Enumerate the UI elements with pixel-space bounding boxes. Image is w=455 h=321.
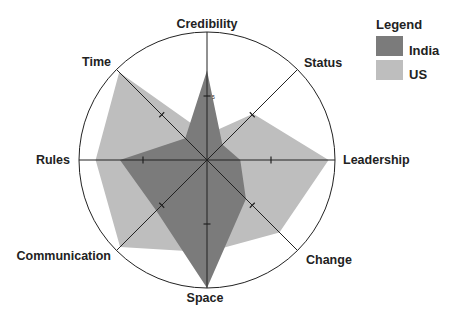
legend-label-us: US <box>409 67 427 82</box>
axis-spokes <box>79 32 335 288</box>
legend-swatch-india <box>376 36 403 56</box>
legend-item-india: India <box>376 34 455 58</box>
axis-label-leadership: Leadership <box>343 153 410 167</box>
legend-label-india: India <box>409 43 439 58</box>
legend-title: Legend <box>376 16 455 34</box>
legend: Legend India US <box>376 16 455 82</box>
axis-label-time: Time <box>82 55 111 69</box>
legend-swatch-us <box>376 60 403 80</box>
tick-label-5: 5 <box>212 94 215 100</box>
axis-label-communication: Communication <box>17 249 111 263</box>
axis-label-change: Change <box>306 253 352 267</box>
axis-label-space: Space <box>187 291 224 305</box>
axis-label-credibility: Credibility <box>176 17 237 31</box>
legend-item-us: US <box>376 58 455 82</box>
axis-label-status: Status <box>304 56 342 70</box>
axis-label-rules: Rules <box>36 153 70 167</box>
